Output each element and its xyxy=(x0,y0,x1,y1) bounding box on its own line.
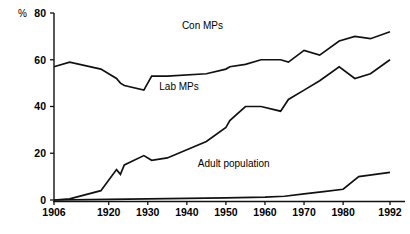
chart-figure: 020406080 190619201930194019501960197019… xyxy=(0,0,410,234)
y-tick-label-60: 60 xyxy=(34,54,46,66)
y-tick-label-0: 0 xyxy=(40,194,46,206)
x-tick-label-1960: 1960 xyxy=(253,206,277,218)
x-tick-label-1920: 1920 xyxy=(97,206,121,218)
series-annotations: Con MPsLab MPsAdult population xyxy=(159,20,269,169)
x-tick-label-1950: 1950 xyxy=(214,206,238,218)
axes xyxy=(53,13,405,202)
x-tick-label-1930: 1930 xyxy=(136,206,160,218)
y-axis-tick-labels: 020406080 xyxy=(34,7,46,206)
data-series-lines xyxy=(54,32,390,200)
x-tick-label-1980: 1980 xyxy=(331,206,355,218)
y-axis-unit-label: % xyxy=(18,8,27,19)
y-tick-label-20: 20 xyxy=(34,147,46,159)
y-tick-label-40: 40 xyxy=(34,100,46,112)
series-line-lab-mps xyxy=(54,60,390,200)
x-tick-label-1970: 1970 xyxy=(292,206,316,218)
series-line-con-mps xyxy=(54,32,390,90)
x-tick-label-1992: 1992 xyxy=(378,206,402,218)
series-label-con-mps: Con MPs xyxy=(182,20,223,31)
y-tick-label-80: 80 xyxy=(34,7,46,19)
series-label-lab-mps: Lab MPs xyxy=(159,81,198,92)
x-tick-label-1906: 1906 xyxy=(42,206,66,218)
x-tick-label-1940: 1940 xyxy=(175,206,199,218)
x-axis-tick-labels: 190619201930194019501960197019801992 xyxy=(42,206,402,218)
series-label-adult-population: Adult population xyxy=(198,158,270,169)
